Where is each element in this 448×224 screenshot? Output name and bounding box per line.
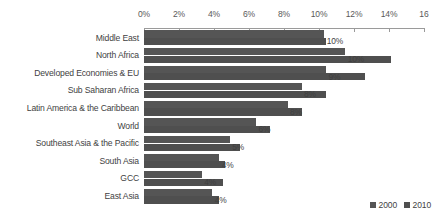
category-label: Latin America & the Caribbean (0, 103, 139, 113)
category-label: Middle East (0, 33, 139, 43)
bar-group: 5% (144, 135, 424, 153)
x-axis-tick-label: 12% (346, 9, 363, 19)
bar-value-label: 6% (259, 124, 271, 134)
chart-legend: 20002010 (370, 200, 431, 210)
bar-2000 (144, 30, 324, 37)
bar-2000 (144, 66, 326, 73)
x-axis-tick-label: 6% (243, 9, 255, 19)
x-axis-tick-label: 8% (278, 9, 290, 19)
bar-2000 (144, 154, 219, 161)
x-axis-tick-label: 2% (173, 9, 185, 19)
legend-swatch-icon (404, 202, 410, 208)
category-label: Developed Economies & EU (0, 68, 139, 78)
bar-value-label: 8% (290, 107, 302, 117)
bar-2000 (144, 189, 212, 196)
category-label: Southeast Asia & the Pacific (0, 138, 139, 148)
bar-2010 (144, 91, 326, 98)
bar-value-label: 5% (232, 142, 244, 152)
bar-value-label: 9% (329, 72, 341, 82)
plot-area: 10%10%9%8%8%6%5%4%4%4% (144, 29, 424, 205)
legend-swatch-icon (370, 202, 376, 208)
bar-value-label: 10% (348, 54, 364, 64)
bar-2010 (144, 161, 225, 168)
legend-label: 2000 (379, 200, 398, 210)
bar-value-label: 8% (304, 89, 316, 99)
bar-group: 9% (144, 64, 424, 82)
x-axis-tick-label: 14% (381, 9, 398, 19)
category-label: North Africa (0, 50, 139, 60)
bar-2000 (144, 48, 345, 55)
x-axis-tick-label: 4% (208, 9, 220, 19)
x-axis-tick-mark (424, 28, 425, 32)
bar-group: 4% (144, 170, 424, 188)
bar-2010 (144, 108, 302, 115)
x-axis-tick-label: 10% (311, 9, 328, 19)
legend-item-2000[interactable]: 2000 (370, 200, 397, 210)
bar-2000 (144, 83, 302, 90)
bar-value-label: 10% (327, 36, 343, 46)
y-axis-category-labels: Middle EastNorth AfricaDeveloped Economi… (0, 29, 139, 205)
bar-group: 6% (144, 117, 424, 135)
bar-value-label: 4% (215, 195, 227, 205)
category-label: Sub Saharan Africa (0, 85, 139, 95)
bar-chart: 0%2%4%6%8%10%12%14%16 Middle EastNorth A… (0, 0, 448, 224)
bar-group: 8% (144, 82, 424, 100)
bar-group: 4% (144, 152, 424, 170)
bar-2000 (144, 136, 230, 143)
bar-2010 (144, 126, 270, 133)
bar-group: 8% (144, 99, 424, 117)
legend-label: 2010 (413, 200, 432, 210)
legend-item-2010[interactable]: 2010 (404, 200, 431, 210)
bar-2000 (144, 118, 256, 125)
bar-value-label: 4% (204, 177, 216, 187)
bar-2010 (144, 196, 219, 203)
category-label: South Asia (0, 156, 139, 166)
bar-value-label: 4% (222, 160, 234, 170)
bar-group: 10% (144, 47, 424, 65)
x-axis-tick-labels: 0%2%4%6%8%10%12%14%16 (0, 9, 448, 23)
category-label: East Asia (0, 191, 139, 201)
bar-2000 (144, 171, 202, 178)
category-label: GCC (0, 173, 139, 183)
bar-group: 10% (144, 29, 424, 47)
x-axis-tick-label: 16 (419, 9, 428, 19)
bar-2000 (144, 101, 288, 108)
bar-2010 (144, 38, 326, 45)
bar-2010 (144, 144, 240, 151)
category-label: World (0, 121, 139, 131)
x-axis-tick-label: 0% (138, 9, 150, 19)
